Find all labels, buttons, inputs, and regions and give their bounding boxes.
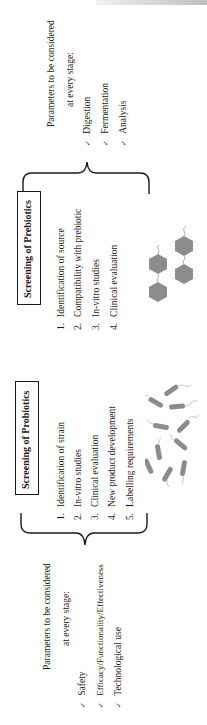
check-icon: ✓	[120, 140, 128, 146]
hexagon-sugar-molecules-icon	[148, 224, 200, 304]
probiotic-param-item: ✓ Safety	[78, 671, 88, 708]
prebiotic-title-box: Screening of Prebiotics	[17, 191, 41, 305]
probiotic-param-item: ✓ Efficacy/Functionality/Effectiveness	[96, 564, 106, 708]
prebiotic-params-heading-line2: at every stage:	[66, 52, 76, 107]
prebiotic-step: 2.Compatibility with prebiotic	[74, 209, 84, 330]
probiotic-params-heading-line1: Parameters to be considered	[43, 563, 53, 670]
check-icon: ✓	[102, 140, 110, 146]
prebiotic-box-title: Screening of Prebiotics	[23, 200, 33, 298]
probiotic-title-box: Screening of Probiotics	[15, 381, 39, 495]
prebiotic-step: 4.Clinical evaluation	[110, 245, 120, 330]
prebiotic-params-heading-line1: Parameters to be considered	[47, 20, 57, 127]
check-icon: ✓	[97, 702, 105, 708]
probiotic-step: 2.In-vitro studies	[74, 449, 84, 520]
running-header	[96, 0, 207, 5]
check-icon: ✓	[115, 702, 123, 708]
probiotic-step: 3.Clinical evaluation	[91, 435, 101, 520]
probiotic-brace	[18, 512, 152, 557]
check-icon: ✓	[84, 140, 92, 146]
prebiotic-param-item: ✓ Analysis	[119, 101, 129, 147]
probiotic-params-heading-line2: at every stage:	[62, 591, 72, 646]
rod-shaped-bacteria-icon	[145, 380, 207, 490]
probiotic-box-title: Screening of Probiotics	[21, 390, 31, 489]
probiotic-step: 4.New product development	[108, 406, 118, 520]
prebiotic-param-item: ✓ Digestion	[83, 97, 93, 146]
prebiotic-step: 1.Identification of source	[57, 228, 67, 330]
probiotic-step: 5.Labelling requirements	[126, 419, 136, 521]
prebiotic-brace	[20, 150, 154, 195]
prebiotic-param-item: ✓ Fermentation	[101, 83, 111, 146]
check-icon: ✓	[79, 702, 87, 708]
prebiotic-step: 3.In-vitro studies	[92, 259, 102, 330]
probiotic-step: 1.Identification of strain	[57, 422, 67, 520]
probiotic-param-item: ✓ Technological use	[114, 627, 124, 708]
